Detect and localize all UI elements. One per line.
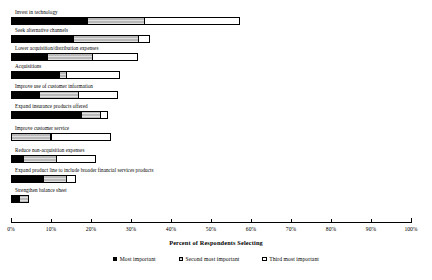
legend-swatch-icon bbox=[179, 257, 183, 261]
chart-legend: Most importantSecond most importantThird… bbox=[0, 256, 432, 262]
bar-segment-3 bbox=[66, 175, 76, 183]
x-tick bbox=[211, 219, 212, 223]
bar-segment-3 bbox=[138, 35, 150, 43]
bar-segment-2 bbox=[81, 111, 101, 119]
x-tick bbox=[51, 219, 52, 223]
x-tick bbox=[371, 219, 372, 223]
bar-segment-2 bbox=[43, 175, 67, 183]
bar-segment-1 bbox=[11, 17, 87, 25]
bar-segment-1 bbox=[11, 91, 39, 99]
bar-segment-2 bbox=[73, 35, 139, 43]
bar-segment-1 bbox=[11, 155, 23, 163]
category-label: Improve use of customer information bbox=[15, 83, 93, 89]
x-tick bbox=[331, 219, 332, 223]
x-tick-label: 80% bbox=[326, 226, 336, 233]
bar-segment-3 bbox=[51, 133, 111, 141]
x-tick-label: 50% bbox=[206, 226, 216, 233]
x-tick bbox=[11, 218, 12, 223]
stacked-bar bbox=[11, 111, 108, 119]
bar-segment-3 bbox=[100, 111, 108, 119]
category-label: Seek alternative channels bbox=[15, 27, 68, 33]
x-tick-label: 100% bbox=[404, 226, 417, 233]
category-label: Reduce non-acquisition expenses bbox=[15, 147, 84, 153]
x-tick-label: 40% bbox=[166, 226, 176, 233]
bar-segment-2 bbox=[11, 133, 51, 141]
x-tick-label: 0% bbox=[7, 226, 14, 233]
legend-item: Second most important bbox=[179, 256, 240, 262]
x-tick bbox=[171, 219, 172, 223]
bar-segment-2 bbox=[87, 17, 145, 25]
stacked-bar bbox=[11, 133, 110, 141]
legend-label: Second most important bbox=[185, 256, 239, 262]
category-label: Invest in technology bbox=[15, 9, 58, 15]
category-label: Strengthen balance sheet bbox=[15, 187, 67, 193]
stacked-bar bbox=[11, 17, 240, 25]
x-tick bbox=[131, 219, 132, 223]
bar-segment-1 bbox=[11, 35, 73, 43]
chart-container: Invest in technologySeek alternative cha… bbox=[0, 0, 432, 280]
bar-segment-1 bbox=[11, 53, 47, 61]
x-tick bbox=[91, 219, 92, 223]
x-tick-label: 60% bbox=[246, 226, 256, 233]
x-tick bbox=[291, 219, 292, 223]
legend-item: Most important bbox=[113, 256, 156, 262]
bar-segment-2 bbox=[23, 155, 57, 163]
stacked-bar bbox=[11, 155, 96, 163]
x-axis bbox=[11, 222, 411, 223]
stacked-bar bbox=[11, 35, 150, 43]
legend-label: Third most important bbox=[269, 256, 319, 262]
x-tick bbox=[411, 218, 412, 223]
legend-label: Most important bbox=[120, 256, 156, 262]
x-tick bbox=[251, 219, 252, 223]
bar-segment-3 bbox=[78, 91, 118, 99]
category-label: Expand product line to include broader f… bbox=[15, 167, 154, 173]
stacked-bar bbox=[11, 91, 118, 99]
bar-segment-2 bbox=[39, 91, 79, 99]
category-label: Lower acquisition/distribution expenses bbox=[15, 45, 98, 51]
x-tick-label: 20% bbox=[86, 226, 96, 233]
bar-segment-3 bbox=[92, 53, 138, 61]
x-axis-title: Percent of Respondents Selecting bbox=[0, 239, 432, 246]
stacked-bar bbox=[11, 71, 120, 79]
legend-swatch-icon bbox=[262, 257, 266, 261]
bar-segment-1 bbox=[11, 175, 43, 183]
bar-segment-1 bbox=[11, 111, 81, 119]
category-label: Expand insurance products offered bbox=[15, 103, 88, 109]
bar-segment-3 bbox=[66, 71, 120, 79]
bar-segment-3 bbox=[144, 17, 240, 25]
x-tick-label: 70% bbox=[286, 226, 296, 233]
stacked-bar bbox=[11, 195, 28, 203]
x-tick-label: 90% bbox=[366, 226, 376, 233]
bar-segment-2 bbox=[19, 195, 29, 203]
category-label: Acquisitions bbox=[15, 63, 41, 69]
x-tick-label: 30% bbox=[126, 226, 136, 233]
category-label: Improve customer service bbox=[15, 125, 69, 131]
stacked-bar bbox=[11, 53, 138, 61]
plot-area: Invest in technologySeek alternative cha… bbox=[11, 6, 411, 210]
bar-segment-2 bbox=[47, 53, 93, 61]
x-tick-label: 10% bbox=[46, 226, 56, 233]
stacked-bar bbox=[11, 175, 76, 183]
bar-segment-1 bbox=[11, 71, 59, 79]
legend-item: Third most important bbox=[262, 256, 319, 262]
bar-segment-3 bbox=[56, 155, 96, 163]
legend-swatch-icon bbox=[113, 257, 117, 261]
